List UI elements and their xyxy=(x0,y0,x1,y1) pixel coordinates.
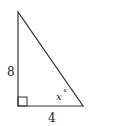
triangle-diagram: 8 4 x ° xyxy=(0,0,114,126)
horizontal-side-label: 4 xyxy=(48,111,56,125)
angle-degree-symbol: ° xyxy=(63,88,67,97)
right-angle-marker xyxy=(18,97,27,106)
right-triangle xyxy=(18,12,83,106)
vertical-side-label: 8 xyxy=(7,65,15,79)
angle-label: x xyxy=(56,91,62,102)
